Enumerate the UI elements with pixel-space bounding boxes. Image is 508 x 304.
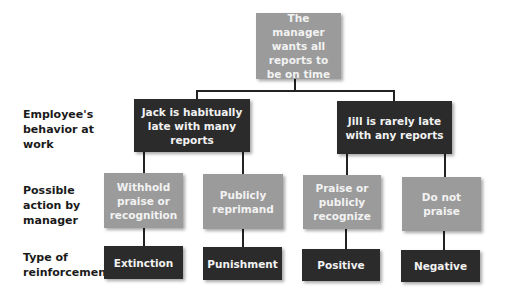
action-reprimand-box: Publicly reprimand: [203, 174, 283, 229]
connector-withhold-extinction: [143, 228, 145, 246]
connector-to-jack: [196, 90, 198, 99]
row-label-behavior: Employee's behavior at work: [23, 107, 98, 152]
reinforcement-punishment-box: Punishment: [203, 247, 282, 280]
connector-horizontal-top: [196, 90, 394, 92]
connector-jack-withhold: [143, 152, 145, 173]
row-label-action: Possible action by manager: [23, 183, 98, 228]
connector-praise-positive: [345, 229, 347, 249]
behavior-jack-box: Jack is habitually late with many report…: [134, 99, 250, 152]
connector-jack-reprimand: [242, 152, 244, 174]
reinforcement-positive-box: Positive: [302, 249, 380, 281]
connector-to-jill: [393, 90, 395, 101]
action-withhold-box: Withhold praise or recognition: [104, 173, 183, 228]
connector-jill-donot: [444, 154, 446, 177]
root-goal-box: The manager wants all reports to be on t…: [256, 13, 341, 79]
connector-jill-praise: [346, 154, 348, 175]
connector-reprimand-punishment: [242, 229, 244, 247]
row-label-reinforcement: Type of reinforcement: [23, 250, 103, 280]
action-praise-box: Praise or publicly recognize: [303, 175, 381, 229]
behavior-jill-box: Jill is rarely late with any reports: [337, 101, 452, 154]
reinforcement-negative-box: Negative: [401, 250, 480, 282]
reinforcement-extinction-box: Extinction: [104, 246, 183, 279]
action-do-not-praise-box: Do not praise: [402, 177, 481, 231]
connector-donot-negative: [443, 231, 445, 250]
